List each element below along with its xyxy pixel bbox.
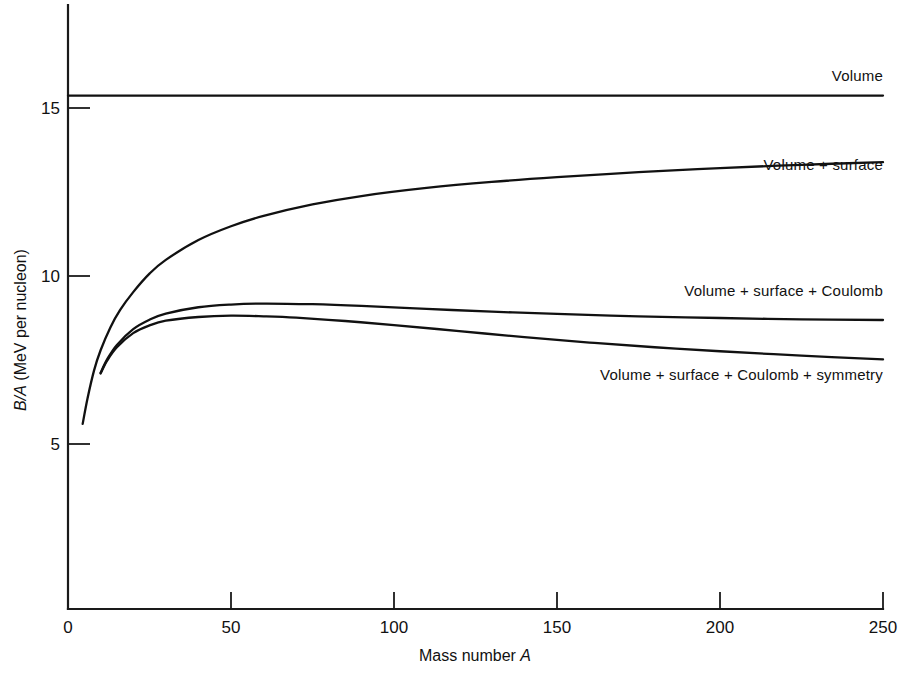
- y-axis-title-plain: (MeV per nucleon): [12, 249, 29, 385]
- x-axis-tick-labels: 050100150200250: [63, 618, 897, 637]
- y-axis-title-symbol: B/A: [12, 385, 29, 411]
- y-tick-label-10: 10: [41, 267, 60, 286]
- y-tick-label-15: 15: [41, 99, 60, 118]
- x-tick-label-50: 50: [222, 618, 241, 637]
- series-label-3: Volume + surface + Coulomb: [684, 282, 883, 299]
- x-tick-label-0: 0: [63, 618, 72, 637]
- x-axis-title-symbol: A: [519, 647, 531, 664]
- x-tick-label-100: 100: [380, 618, 408, 637]
- x-axis-ticks: [231, 592, 883, 609]
- curve-volume-surface-coulomb: [101, 304, 883, 373]
- series-label-2: Volume + surface: [763, 156, 883, 173]
- binding-energy-chart: 050100150200250 51015 VolumeVolume + sur…: [0, 0, 911, 676]
- series-label-1: Volume: [832, 67, 883, 84]
- y-axis-ticks: [68, 108, 90, 444]
- x-axis-title-plain: Mass number: [419, 647, 520, 664]
- x-tick-label-200: 200: [706, 618, 734, 637]
- curve-volume-surface-coulomb-symmetry: [101, 316, 883, 374]
- chart-root: 050100150200250 51015 VolumeVolume + sur…: [0, 0, 911, 676]
- x-axis-title: Mass number A: [419, 647, 531, 664]
- x-tick-label-150: 150: [543, 618, 571, 637]
- y-axis-title: B/A (MeV per nucleon): [12, 249, 29, 411]
- series-label-4: Volume + surface + Coulomb + symmetry: [600, 366, 883, 383]
- x-tick-label-250: 250: [869, 618, 897, 637]
- y-tick-label-5: 5: [51, 435, 60, 454]
- series-labels: VolumeVolume + surfaceVolume + surface +…: [600, 67, 883, 383]
- y-axis-tick-labels: 51015: [41, 99, 60, 454]
